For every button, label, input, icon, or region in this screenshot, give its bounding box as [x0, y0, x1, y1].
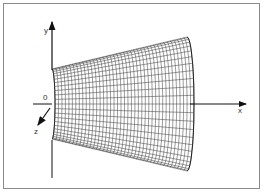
- frustum-mesh: [52, 37, 194, 171]
- x-axis-label: x: [238, 106, 242, 115]
- y-axis-label: y: [44, 26, 48, 35]
- frustum-diagram: y x z 0: [0, 0, 264, 193]
- z-axis: [38, 108, 50, 125]
- z-axis-label: z: [34, 127, 38, 136]
- origin-label: 0: [43, 93, 48, 102]
